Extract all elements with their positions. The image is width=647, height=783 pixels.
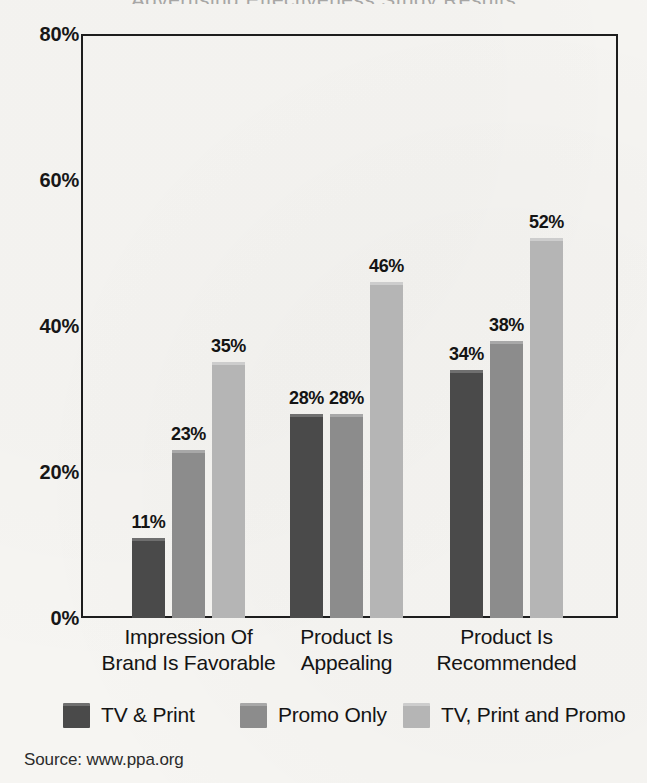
bar[interactable]: 46%	[370, 282, 403, 618]
legend-item[interactable]: Promo Only	[240, 700, 387, 730]
bar-value-label: 46%	[369, 256, 404, 277]
legend-item[interactable]: TV, Print and Promo	[403, 700, 626, 730]
bar-rect	[450, 370, 483, 618]
legend-label: Promo Only	[278, 703, 387, 727]
source-note: Source: www.ppa.org	[24, 750, 184, 770]
bar-group: 28%28%46%	[290, 34, 403, 618]
bar-value-label: 35%	[211, 336, 246, 357]
bar-rect	[132, 538, 165, 618]
legend-label: TV, Print and Promo	[441, 703, 626, 727]
y-axis-tick-label: 20%	[7, 461, 79, 484]
bar-rect	[172, 450, 205, 618]
y-axis-tick-label: 60%	[7, 169, 79, 192]
cut-off-title-remnant: Advertising Effectiveness Study Results	[0, 0, 647, 4]
bar-value-label: 52%	[529, 212, 564, 233]
bar[interactable]: 38%	[490, 341, 523, 618]
bar-value-label: 34%	[449, 344, 484, 365]
bar-value-label: 38%	[489, 315, 524, 336]
x-axis-category-line-1: Product Is	[377, 624, 637, 650]
chart-legend: TV & PrintPromo OnlyTV, Print and Promo	[0, 700, 647, 738]
chart-page: Advertising Effectiveness Study Results …	[0, 0, 647, 783]
bar-face	[370, 285, 403, 618]
bar[interactable]: 28%	[290, 414, 323, 618]
legend-color-swatch	[63, 703, 90, 728]
bar-face	[172, 453, 205, 618]
y-axis-tick-label: 80%	[7, 23, 79, 46]
x-axis: Impression OfBrand Is FavorableProduct I…	[81, 624, 618, 690]
bar-group: 34%38%52%	[450, 34, 563, 618]
x-axis-category-line-2: Recommended	[377, 650, 637, 676]
bar-rect	[490, 341, 523, 618]
bar-face	[330, 417, 363, 618]
bar[interactable]: 52%	[530, 238, 563, 618]
bar[interactable]: 11%	[132, 538, 165, 618]
x-axis-category-label: Product IsRecommended	[377, 624, 637, 676]
bar-group: 11%23%35%	[132, 34, 245, 618]
legend-label: TV & Print	[101, 703, 195, 727]
bar-rect	[530, 238, 563, 618]
bar[interactable]: 35%	[212, 362, 245, 618]
bar-value-label: 28%	[329, 388, 364, 409]
bar-value-label: 28%	[289, 388, 324, 409]
bar-value-label: 11%	[131, 512, 165, 533]
bar-face	[530, 241, 563, 618]
bar-value-label: 23%	[171, 424, 206, 445]
bar-rect	[330, 414, 363, 618]
y-axis-tick-label: 40%	[7, 315, 79, 338]
bar[interactable]: 28%	[330, 414, 363, 618]
legend-color-swatch	[403, 703, 430, 728]
bar-face	[450, 373, 483, 618]
bar-rect	[290, 414, 323, 618]
bar-face	[290, 417, 323, 618]
bar[interactable]: 23%	[172, 450, 205, 618]
bar-rect	[212, 362, 245, 618]
legend-item[interactable]: TV & Print	[63, 700, 195, 730]
bar-face	[490, 344, 523, 618]
legend-color-swatch	[240, 703, 267, 728]
bars-layer: 11%23%35%28%28%46%34%38%52%	[81, 34, 618, 618]
bar-rect	[370, 282, 403, 618]
bar[interactable]: 34%	[450, 370, 483, 618]
bar-face	[212, 365, 245, 618]
bar-face	[132, 541, 165, 618]
